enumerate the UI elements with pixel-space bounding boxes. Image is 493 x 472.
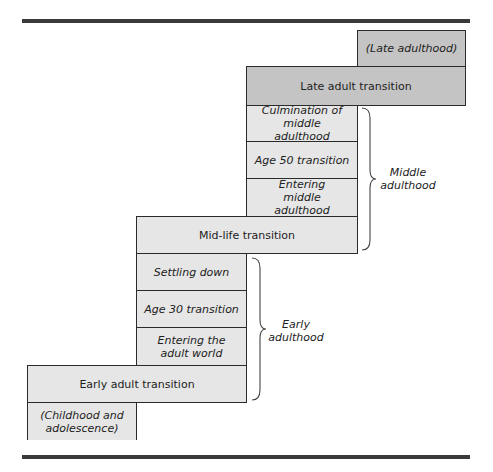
early-adulthood-label: Early adulthood <box>268 318 324 344</box>
middle-adulthood-label: Middle adulthood <box>378 166 438 192</box>
middle-adulthood-brace <box>360 108 380 250</box>
step-label: Entering the adult world <box>155 334 228 360</box>
step-mid-life-transition: Mid-life transition <box>136 216 358 254</box>
step-age-50-transition: Age 50 transition <box>246 141 358 179</box>
step-label: Late adult transition <box>300 80 411 93</box>
step-entering-adult-world: Entering the adult world <box>136 327 247 366</box>
step-label: Age 30 transition <box>144 303 239 316</box>
step-settling-down: Settling down <box>136 253 247 291</box>
top-rule <box>22 19 470 23</box>
step-early-adult-transition: Early adult transition <box>27 365 247 403</box>
step-label: (Late adulthood) <box>366 42 458 55</box>
early-adulthood-brace <box>250 258 270 400</box>
step-late-adulthood: (Late adulthood) <box>357 30 466 67</box>
step-age-30-transition: Age 30 transition <box>136 290 247 328</box>
step-childhood: (Childhood and adolescence) <box>27 402 137 440</box>
step-entering-middle: Entering middle adulthood <box>246 178 358 217</box>
step-label: Settling down <box>154 266 230 279</box>
step-label: Mid-life transition <box>199 229 295 242</box>
step-label: Culmination of middle adulthood <box>261 104 343 143</box>
step-late-adult-transition: Late adult transition <box>246 66 466 106</box>
step-label: Early adult transition <box>79 378 194 391</box>
step-label: Age 50 transition <box>255 154 350 167</box>
step-label: (Childhood and adolescence) <box>36 409 128 435</box>
step-label: Entering middle adulthood <box>261 178 343 217</box>
bottom-rule <box>22 455 470 459</box>
step-culmination-middle: Culmination of middle adulthood <box>246 105 358 142</box>
